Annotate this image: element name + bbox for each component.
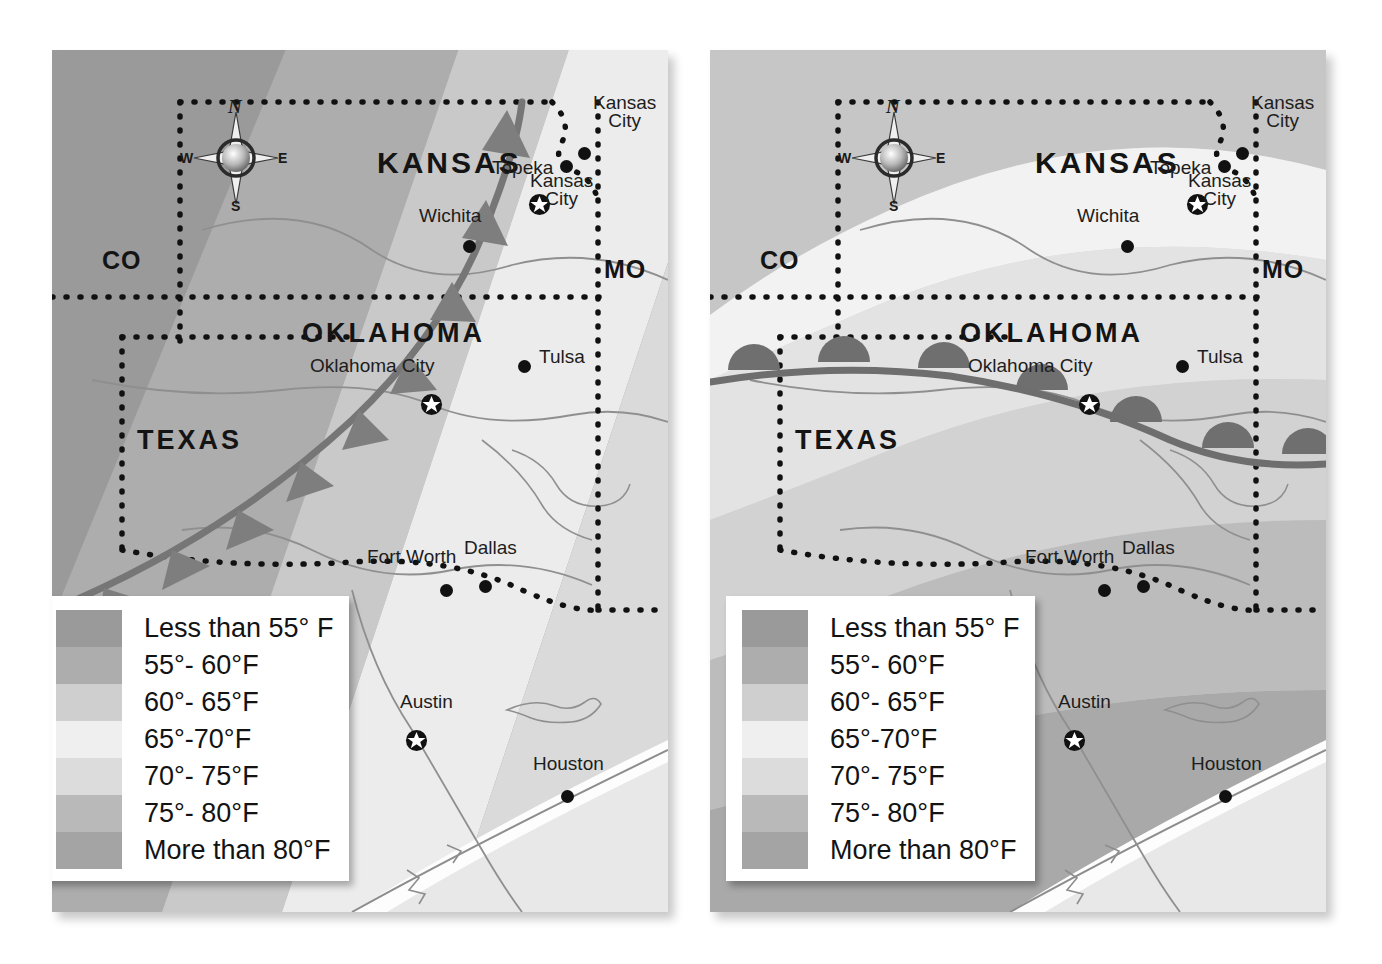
legend-label: 65°-70°F	[830, 721, 1019, 758]
legend-label: Less than 55° F	[830, 610, 1019, 647]
legend-swatch	[742, 832, 808, 869]
state-label-texas: TEXAS	[795, 425, 900, 456]
city-dot-wichita	[463, 240, 476, 253]
legend-swatch	[56, 610, 122, 647]
city-label-wichita: Wichita	[1077, 205, 1139, 227]
capital-star-austin	[1063, 729, 1086, 752]
legend-swatch	[742, 647, 808, 684]
city-label-houston: Houston	[1191, 753, 1262, 775]
city-label-oklahoma-city: Oklahoma City	[968, 355, 1093, 377]
legend-swatch	[742, 610, 808, 647]
city-label-kansas-city: Kansas City	[530, 172, 593, 208]
city-label-austin: Austin	[400, 691, 453, 713]
legend-swatch	[742, 795, 808, 832]
legend-swatch	[56, 795, 122, 832]
legend-label: 75°- 80°F	[830, 795, 1019, 832]
legend-swatch	[56, 721, 122, 758]
map-panel-cold-front: N S E W KANSASOKLAHOMATEXASCOMOWichitaTo…	[52, 50, 668, 912]
city-dot-houston	[1219, 790, 1232, 803]
legend-swatches	[742, 610, 808, 869]
state-label-oklahoma: OKLAHOMA	[302, 318, 485, 349]
city-dot-tulsa	[518, 360, 531, 373]
city-label-tulsa: Tulsa	[1197, 346, 1243, 368]
city-dot-dallas	[1137, 580, 1150, 593]
city-dot-fort-worth	[1098, 584, 1111, 597]
capital-star-oklahoma-city	[420, 393, 443, 416]
city-label-wichita: Wichita	[419, 205, 481, 227]
legend-label: 70°- 75°F	[830, 758, 1019, 795]
legend-cold-front-map: Less than 55° F55°- 60°F60°- 65°F65°-70°…	[52, 596, 349, 881]
city-dot-kansas-city	[1236, 147, 1249, 160]
capital-star-austin	[405, 729, 428, 752]
city-dot-kansas-city	[1218, 160, 1231, 173]
legend-label: More than 80°F	[144, 832, 333, 869]
legend-swatch	[56, 758, 122, 795]
compass-rose: N S E W	[182, 100, 290, 216]
legend-label: 65°-70°F	[144, 721, 333, 758]
compass-north-label: N	[228, 96, 242, 118]
legend-label: 70°- 75°F	[144, 758, 333, 795]
city-dot-tulsa	[1176, 360, 1189, 373]
legend-swatch	[742, 758, 808, 795]
legend-swatch	[56, 684, 122, 721]
legend-labels: Less than 55° F55°- 60°F60°- 65°F65°-70°…	[830, 610, 1019, 869]
compass-east-label: E	[936, 150, 945, 166]
state-abbr-mo: MO	[1262, 255, 1304, 284]
compass-rose: N S E W	[840, 100, 948, 216]
city-label-tulsa: Tulsa	[539, 346, 585, 368]
state-abbr-co: CO	[102, 246, 142, 275]
city-label-kansas-city: Kansas City	[1251, 94, 1314, 130]
city-label-fort-worth: Fort Worth	[367, 546, 456, 568]
compass-west-label: W	[180, 150, 193, 166]
city-label-kansas-city: Kansas City	[1188, 172, 1251, 208]
state-abbr-mo: MO	[604, 255, 646, 284]
state-label-oklahoma: OKLAHOMA	[960, 318, 1143, 349]
state-abbr-co: CO	[760, 246, 800, 275]
legend-label: 60°- 65°F	[144, 684, 333, 721]
legend-swatch	[56, 832, 122, 869]
map-panel-warm-front: N S E W KANSASOKLAHOMATEXASCOMOWichitaTo…	[710, 50, 1326, 912]
legend-swatch	[56, 647, 122, 684]
city-label-houston: Houston	[533, 753, 604, 775]
city-label-oklahoma-city: Oklahoma City	[310, 355, 435, 377]
city-dot-wichita	[1121, 240, 1134, 253]
city-label-kansas-city: Kansas City	[593, 94, 656, 130]
compass-north-label: N	[886, 96, 900, 118]
city-label-austin: Austin	[1058, 691, 1111, 713]
city-label-fort-worth: Fort Worth	[1025, 546, 1114, 568]
legend-swatches	[56, 610, 122, 869]
state-label-texas: TEXAS	[137, 425, 242, 456]
legend-label: 60°- 65°F	[830, 684, 1019, 721]
legend-label: More than 80°F	[830, 832, 1019, 869]
city-label-dallas: Dallas	[1122, 537, 1175, 559]
compass-south-label: S	[231, 198, 240, 214]
compass-west-label: W	[838, 150, 851, 166]
city-dot-dallas	[479, 580, 492, 593]
city-dot-houston	[561, 790, 574, 803]
capital-star-oklahoma-city	[1078, 393, 1101, 416]
legend-labels: Less than 55° F55°- 60°F60°- 65°F65°-70°…	[144, 610, 333, 869]
legend-label: 55°- 60°F	[144, 647, 333, 684]
legend-swatch	[742, 684, 808, 721]
city-dot-kansas-city	[560, 160, 573, 173]
legend-warm-front-map: Less than 55° F55°- 60°F60°- 65°F65°-70°…	[726, 596, 1035, 881]
legend-label: 55°- 60°F	[830, 647, 1019, 684]
legend-swatch	[742, 721, 808, 758]
legend-label: 75°- 80°F	[144, 795, 333, 832]
city-dot-kansas-city	[578, 147, 591, 160]
compass-east-label: E	[278, 150, 287, 166]
city-label-dallas: Dallas	[464, 537, 517, 559]
compass-south-label: S	[889, 198, 898, 214]
legend-label: Less than 55° F	[144, 610, 333, 647]
city-dot-fort-worth	[440, 584, 453, 597]
